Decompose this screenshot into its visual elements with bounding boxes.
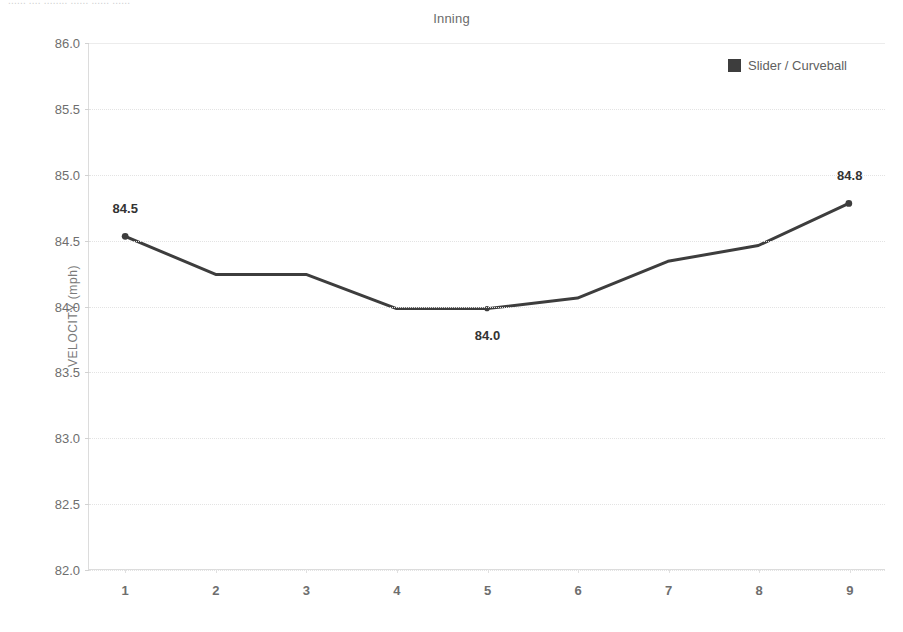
chart-legend: Slider / Curveball	[728, 58, 847, 73]
y-axis-tick-label: 86.0	[55, 36, 80, 51]
legend-label-slider-curveball: Slider / Curveball	[748, 58, 847, 73]
y-axis-tick-label: 84.5	[55, 233, 80, 248]
x-axis-tick-mark	[216, 569, 217, 573]
gridline-y	[89, 109, 885, 110]
cropped-text: ...... .... ........ ...... ...... .....…	[8, 0, 130, 6]
series-line-slider-curveball	[125, 203, 849, 308]
x-axis-tick-label: 8	[756, 583, 763, 598]
y-axis-tick-label: 83.5	[55, 365, 80, 380]
y-axis-tick-mark	[85, 504, 89, 505]
series-data-point	[845, 200, 852, 207]
x-axis-tick-mark	[488, 569, 489, 573]
x-axis-tick-label: 7	[665, 583, 672, 598]
x-axis-tick-mark	[306, 569, 307, 573]
y-axis-tick-mark	[85, 570, 89, 571]
x-axis-tick-mark	[759, 569, 760, 573]
x-axis-tick-label: 5	[484, 583, 491, 598]
data-point-label: 84.0	[475, 328, 500, 343]
gridline-y	[89, 307, 885, 308]
series-data-point	[122, 233, 129, 240]
y-axis-tick-mark	[85, 109, 89, 110]
data-point-label: 84.8	[837, 167, 862, 182]
x-axis-tick-mark	[850, 569, 851, 573]
cropped-text-strip: ...... .... ........ ...... ...... .....…	[0, 0, 903, 10]
x-axis-tick-mark	[669, 569, 670, 573]
y-axis-tick-mark	[85, 438, 89, 439]
y-axis-tick-mark	[85, 241, 89, 242]
y-axis-tick-mark	[85, 372, 89, 373]
gridline-y	[89, 241, 885, 242]
x-axis-tick-label: 4	[393, 583, 400, 598]
y-axis-tick-label: 83.0	[55, 431, 80, 446]
chart-title: Inning	[0, 11, 903, 26]
x-axis-tick-mark	[125, 569, 126, 573]
y-axis-tick-label: 82.0	[55, 563, 80, 578]
plot-area: 86.085.585.084.584.083.583.082.582.01234…	[88, 43, 885, 570]
gridline-y	[89, 504, 885, 505]
y-axis-tick-label: 85.5	[55, 101, 80, 116]
gridline-y	[89, 438, 885, 439]
y-axis-tick-label: 84.0	[55, 299, 80, 314]
x-axis-tick-label: 6	[574, 583, 581, 598]
data-point-label: 84.5	[113, 200, 138, 215]
y-axis-tick-mark	[85, 175, 89, 176]
x-axis-tick-label: 2	[212, 583, 219, 598]
x-axis-tick-mark	[397, 569, 398, 573]
y-axis-tick-label: 82.5	[55, 497, 80, 512]
y-axis-tick-mark	[85, 43, 89, 44]
x-axis-tick-label: 3	[303, 583, 310, 598]
legend-swatch-slider-curveball	[728, 59, 741, 72]
y-axis-tick-mark	[85, 307, 89, 308]
x-axis-tick-label: 9	[846, 583, 853, 598]
y-axis-title: VELOCITY (mph)	[66, 265, 80, 367]
gridline-y	[89, 175, 885, 176]
y-axis-tick-label: 85.0	[55, 167, 80, 182]
chart-page: ...... .... ........ ...... ...... .....…	[0, 0, 903, 632]
x-axis-tick-label: 1	[122, 583, 129, 598]
x-axis-tick-mark	[578, 569, 579, 573]
gridline-y	[89, 372, 885, 373]
